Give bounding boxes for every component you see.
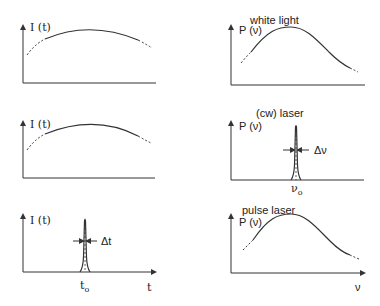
- spectrum-curve: [251, 27, 350, 68]
- y-axis-label: I (t): [30, 21, 51, 34]
- y-axis-label: P (ν): [239, 120, 262, 132]
- curve-dashed-end: [350, 255, 359, 259]
- curve-dashed-end: [138, 136, 151, 143]
- curve-dashed-start: [27, 39, 45, 55]
- spectrum-curve: [253, 214, 350, 255]
- row-cw-laser: (cw) laser I (t) P (ν) Δν νo: [23, 107, 364, 197]
- curve-dashed-end: [138, 40, 152, 48]
- curve-dashed-start: [243, 240, 253, 250]
- freq-panel-cw-laser: P (ν) Δν νo: [231, 120, 364, 197]
- freq-panel-pulse-laser: P (ν) ν: [231, 214, 363, 293]
- y-axis-label: I (t): [30, 118, 51, 131]
- intensity-curve: [45, 124, 138, 136]
- time-panel-white-light: I (t): [23, 21, 156, 83]
- row-title-cw-laser: (cw) laser: [256, 107, 304, 119]
- pulse-duration-label: Δt: [101, 235, 111, 247]
- curve-dashed-start: [241, 52, 251, 63]
- row-pulse-laser: pulse laser I (t) Δt to t P (ν) ν: [23, 204, 363, 294]
- intensity-curve: [45, 30, 138, 40]
- x-axis-label: ν: [355, 281, 361, 293]
- center-time-label: to: [80, 279, 89, 294]
- linewidth-label: Δν: [314, 144, 327, 156]
- time-panel-cw-laser: I (t): [23, 118, 155, 178]
- freq-panel-white-light: P (ν): [231, 24, 365, 85]
- time-panel-pulse-laser: I (t) Δt to t: [23, 214, 154, 294]
- curve-dashed-end: [350, 68, 358, 72]
- light-sources-diagram: white light I (t) P (ν) (cw) laser I (t): [0, 0, 380, 306]
- curve-dashed-start: [27, 134, 45, 150]
- y-axis-label: I (t): [30, 214, 51, 227]
- row-white-light: white light I (t) P (ν): [23, 14, 365, 85]
- center-frequency-label: νo: [291, 182, 303, 197]
- x-axis-label: t: [147, 281, 152, 294]
- y-axis-label: P (ν): [239, 24, 262, 36]
- y-axis-label: P (ν): [239, 216, 262, 228]
